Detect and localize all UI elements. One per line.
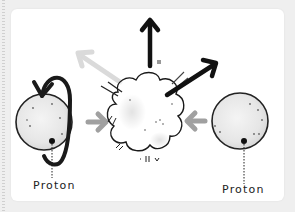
quark-dot-icon	[49, 138, 55, 144]
incoming-arrow-right-icon	[187, 113, 205, 129]
quark-dot-icon	[241, 138, 247, 144]
right-proton-label: Proton	[222, 183, 265, 196]
right-proton	[212, 93, 268, 184]
left-proton	[16, 94, 72, 178]
outgoing-arrow-upper-right-icon	[167, 60, 216, 95]
outgoing-arrow-upper-left-icon	[78, 52, 120, 82]
outgoing-arrow-up-icon	[142, 20, 158, 66]
incoming-arrow-left-icon	[88, 114, 106, 130]
left-proton-label: Proton	[33, 179, 76, 192]
